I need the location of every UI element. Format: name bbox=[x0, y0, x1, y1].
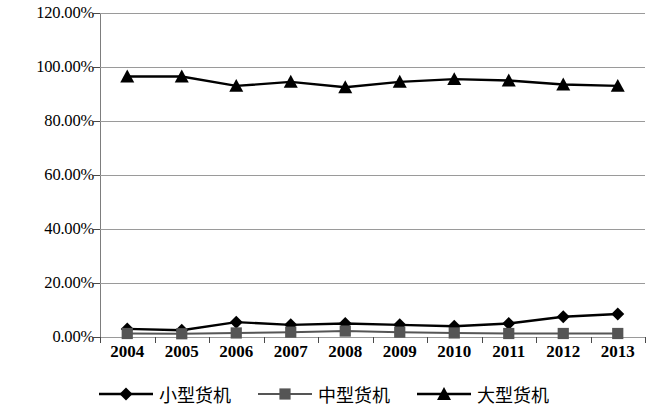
diamond-marker-icon bbox=[98, 384, 154, 404]
series-line bbox=[127, 314, 618, 330]
diamond-data-marker bbox=[611, 308, 624, 321]
y-axis-tick bbox=[93, 337, 100, 338]
y-axis-tick-label: 20.00% bbox=[44, 273, 94, 293]
x-axis-tick bbox=[209, 337, 210, 343]
square-data-marker bbox=[176, 328, 187, 339]
x-axis-tick-label: 2007 bbox=[274, 342, 308, 362]
x-axis-tick bbox=[482, 337, 483, 343]
y-axis-tick-label: 60.00% bbox=[44, 165, 94, 185]
x-axis-tick bbox=[155, 337, 156, 343]
square-data-marker bbox=[394, 327, 405, 338]
y-axis-tick bbox=[93, 175, 100, 176]
series-line bbox=[127, 331, 618, 334]
line-chart: 0.00%20.00%40.00%60.00%80.00%100.00%120.… bbox=[0, 0, 647, 408]
square-marker-icon bbox=[257, 384, 313, 404]
x-axis-tick bbox=[318, 337, 319, 343]
square-data-marker bbox=[285, 327, 296, 338]
x-axis-tick bbox=[536, 337, 537, 343]
x-axis-tick bbox=[645, 337, 646, 343]
y-axis-tick-label: 100.00% bbox=[36, 57, 94, 77]
triangle-marker-icon bbox=[416, 384, 472, 404]
y-axis-labels: 0.00%20.00%40.00%60.00%80.00%100.00%120.… bbox=[0, 13, 94, 337]
x-axis-tick-label: 2004 bbox=[110, 342, 144, 362]
y-axis-tick bbox=[93, 229, 100, 230]
data-series-layer bbox=[100, 13, 645, 337]
square-data-marker bbox=[340, 325, 351, 336]
legend-item[interactable]: 大型货机 bbox=[416, 381, 549, 407]
diamond-data-marker bbox=[120, 387, 133, 400]
x-axis-tick bbox=[373, 337, 374, 343]
square-data-marker bbox=[612, 328, 623, 339]
x-axis-tick-label: 2013 bbox=[601, 342, 635, 362]
x-axis-tick-label: 2010 bbox=[437, 342, 471, 362]
y-axis-tick-label: 40.00% bbox=[44, 219, 94, 239]
x-axis-tick-label: 2006 bbox=[219, 342, 253, 362]
x-axis-tick-label: 2005 bbox=[165, 342, 199, 362]
series-triangle bbox=[120, 69, 625, 93]
y-axis-tick bbox=[93, 283, 100, 284]
x-axis-tick-label: 2012 bbox=[546, 342, 580, 362]
legend-label: 中型货机 bbox=[318, 381, 390, 407]
x-axis-tick bbox=[100, 337, 101, 343]
legend-item[interactable]: 小型货机 bbox=[98, 381, 231, 407]
square-data-marker bbox=[279, 388, 290, 399]
square-data-marker bbox=[449, 327, 460, 338]
x-axis-tick bbox=[264, 337, 265, 343]
x-axis-tick-label: 2009 bbox=[383, 342, 417, 362]
y-axis-tick-label: 0.00% bbox=[52, 327, 94, 347]
x-axis-tick bbox=[591, 337, 592, 343]
plot-area bbox=[100, 13, 645, 337]
x-axis-tick-label: 2011 bbox=[492, 342, 525, 362]
y-axis-tick bbox=[93, 121, 100, 122]
legend-label: 大型货机 bbox=[477, 381, 549, 407]
x-axis-tick bbox=[427, 337, 428, 343]
y-axis-tick-label: 80.00% bbox=[44, 111, 94, 131]
chart-legend: 小型货机中型货机大型货机 bbox=[0, 379, 647, 408]
square-data-marker bbox=[122, 328, 133, 339]
legend-label: 小型货机 bbox=[159, 381, 231, 407]
x-axis-tick-label: 2008 bbox=[328, 342, 362, 362]
square-data-marker bbox=[503, 328, 514, 339]
diamond-data-marker bbox=[230, 316, 243, 329]
square-data-marker bbox=[231, 327, 242, 338]
legend-item[interactable]: 中型货机 bbox=[257, 381, 390, 407]
y-axis-tick bbox=[93, 67, 100, 68]
series-line bbox=[127, 76, 618, 87]
diamond-data-marker bbox=[557, 310, 570, 323]
y-axis-tick bbox=[93, 13, 100, 14]
square-data-marker bbox=[558, 328, 569, 339]
y-axis-tick-label: 120.00% bbox=[36, 3, 94, 23]
